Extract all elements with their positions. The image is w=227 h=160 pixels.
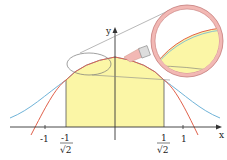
- tick-label-neg-inv-sqrt2-numerator: -1: [61, 133, 70, 143]
- tick-label-inv-sqrt2-numerator: 1: [161, 133, 167, 143]
- y-axis-arrow-icon: [113, 27, 118, 33]
- y-axis-label: y: [105, 26, 112, 36]
- diagram-canvas: x y -1 1 -1 √2 1 √2: [0, 0, 227, 160]
- x-axis-label: x: [219, 130, 224, 140]
- x-axis-arrow-icon: [216, 125, 222, 130]
- tick-label-neg-one: -1: [40, 134, 49, 144]
- tick-label-one: 1: [181, 134, 187, 144]
- gaussian-area-diagram: x y -1 1 -1 √2 1 √2: [0, 0, 227, 160]
- tick-label-neg-inv-sqrt2-denominator: √2: [60, 145, 71, 155]
- tick-label-inv-sqrt2-denominator: √2: [157, 145, 168, 155]
